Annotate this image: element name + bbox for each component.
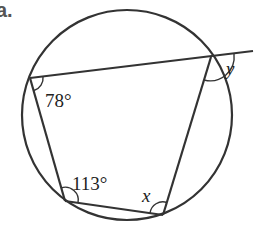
- angle-label-x: x: [141, 185, 151, 206]
- angle-label-113: 113°: [72, 173, 107, 194]
- circumscribed-circle: [22, 10, 232, 220]
- angle-label-78: 78°: [45, 90, 72, 111]
- angle-label-y: y: [224, 58, 235, 79]
- cyclic-quadrilateral-diagram: 78° 113° x y: [0, 0, 257, 234]
- angle-arc-78: [34, 77, 43, 91]
- right-side: [163, 57, 211, 215]
